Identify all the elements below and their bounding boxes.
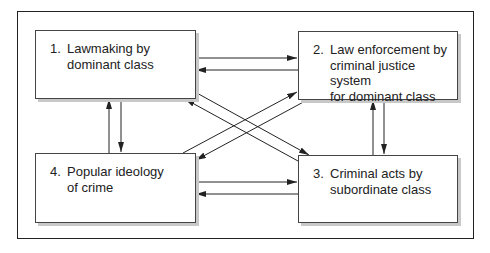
node-number: 1. bbox=[50, 41, 67, 72]
node-criminal-acts: 3. Criminal acts by subordinate class bbox=[298, 155, 458, 223]
node-number: 2. bbox=[313, 42, 330, 104]
node-label-line: dominant class bbox=[67, 57, 154, 73]
node-label-line: criminal justice system bbox=[330, 58, 457, 89]
node-label-line: of crime bbox=[67, 180, 164, 196]
node-label-line: Law enforcement by bbox=[330, 42, 457, 58]
node-label-line: Criminal acts by bbox=[330, 166, 431, 182]
node-lawmaking: 1. Lawmaking by dominant class bbox=[35, 30, 196, 99]
node-label-line: for dominant class bbox=[330, 89, 457, 105]
node-label-line: Popular ideology bbox=[67, 164, 164, 180]
node-label-line: subordinate class bbox=[330, 182, 431, 198]
node-number: 3. bbox=[313, 166, 330, 197]
node-law-enforcement: 2. Law enforcement by criminal justice s… bbox=[298, 31, 458, 100]
node-popular-ideology: 4. Popular ideology of crime bbox=[35, 153, 196, 223]
node-label-line: Lawmaking by bbox=[67, 41, 154, 57]
node-number: 4. bbox=[50, 164, 67, 195]
